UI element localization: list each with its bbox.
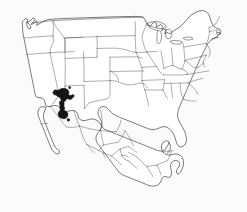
range-patch-east-dot [71, 95, 74, 98]
continent-outline-layer [23, 11, 222, 187]
distribution-map-figure [0, 0, 247, 212]
range-patch-southeast-california [53, 90, 58, 95]
chihuahua-durango-border [80, 126, 101, 131]
nuevo-leon-tamaulipas-border [117, 120, 122, 132]
maryland-virginia-chesapeake [204, 55, 207, 67]
range-patch-colorado-river-corridor [59, 101, 64, 111]
nayarit-coast-line [87, 145, 95, 154]
range-patch-north-dot [69, 87, 71, 89]
north-america-landmass [23, 11, 222, 187]
jalisco-nayarit-border [87, 145, 99, 151]
sinaloa-durango-border [80, 126, 88, 145]
north-america-map [0, 0, 247, 212]
sonora-sinaloa-border [67, 126, 80, 128]
new-hampshire-maine-border [216, 17, 220, 25]
georgia-south-carolina-border [188, 83, 198, 95]
georgia-florida-border [184, 100, 196, 102]
range-patch-south-dot [67, 119, 70, 122]
